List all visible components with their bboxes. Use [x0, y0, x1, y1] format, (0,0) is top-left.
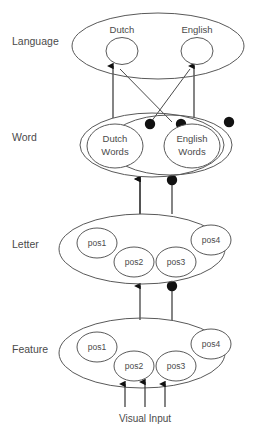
- visual-input-label: Visual Input: [119, 413, 171, 424]
- bia-model-diagram: Language Word Letter Feature Dutch: [0, 0, 268, 436]
- layer-label-language: Language: [12, 35, 59, 47]
- letter-node-pos3-label: pos3: [167, 257, 186, 267]
- language-layer-ellipse: [72, 13, 244, 79]
- word-node-english-words-label-line2: Words: [178, 146, 206, 157]
- language-node-dutch[interactable]: [106, 38, 138, 65]
- inhibitory-dot-word-right: [224, 117, 234, 127]
- letter-node-pos1-label: pos1: [88, 238, 107, 248]
- diagram-canvas: Language Word Letter Feature Dutch: [0, 0, 268, 436]
- language-node-dutch-label: Dutch: [110, 24, 135, 35]
- feature-node-pos4-label: pos4: [202, 339, 221, 349]
- feature-node-pos2-label: pos2: [125, 361, 144, 371]
- language-node-english-label: English: [181, 24, 212, 35]
- feature-node-pos3-label: pos3: [167, 361, 186, 371]
- word-node-dutch-words-label-line1: Dutch: [103, 133, 128, 144]
- word-node-english-words-label-line1: English: [176, 133, 207, 144]
- layer-label-word: Word: [12, 131, 37, 143]
- letter-node-pos4-label: pos4: [202, 235, 221, 245]
- inhibitory-dot-word-left: [145, 119, 155, 129]
- language-node-english[interactable]: [181, 38, 213, 65]
- layer-label-letter: Letter: [12, 238, 39, 250]
- layer-label-feature: Feature: [12, 343, 48, 355]
- feature-node-pos1-label: pos1: [88, 342, 107, 352]
- word-node-dutch-words-label-line2: Words: [101, 146, 129, 157]
- letter-node-pos2-label: pos2: [125, 257, 144, 267]
